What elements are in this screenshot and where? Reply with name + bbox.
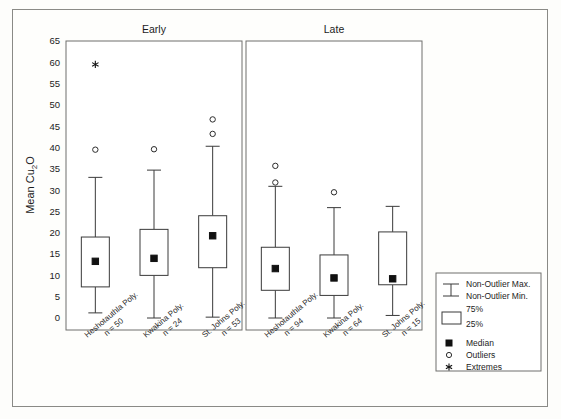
y-tick-label: 55 — [49, 78, 60, 89]
y-tick-label: 15 — [49, 248, 60, 259]
panel-title-late: Late — [324, 23, 345, 35]
y-tick-label: 35 — [49, 163, 60, 174]
y-axis-title-main: Mean Cu — [24, 169, 36, 214]
legend-label-pct75: 75% — [466, 304, 483, 314]
y-tick-label: 20 — [49, 227, 60, 238]
quartile-box-icon — [442, 312, 461, 324]
y-axis-title-tail: O — [24, 156, 36, 165]
legend-label-non-outlier-min: Non-Outlier Min. — [466, 291, 528, 301]
y-tick-label: 65 — [49, 35, 60, 46]
median-marker — [389, 276, 395, 282]
median-marker — [272, 265, 278, 271]
y-tick-label: 0 — [55, 312, 60, 323]
figure-canvas: Early Late Mean Cu2O 0510152025303540455… — [0, 0, 561, 419]
iqr-box — [140, 229, 168, 275]
median-marker — [92, 258, 98, 264]
y-tick-label: 60 — [49, 57, 60, 68]
y-tick-label: 50 — [49, 99, 60, 110]
legend-label-outliers: Outliers — [466, 350, 495, 360]
y-tick-label: 10 — [49, 270, 60, 281]
legend: Non-Outlier Max. Non-Outlier Min. 75% 25… — [436, 273, 541, 372]
median-marker — [331, 275, 337, 281]
boxplot-svg: Early Late Mean Cu2O 0510152025303540455… — [0, 0, 561, 419]
y-tick-label: 30 — [49, 185, 60, 196]
legend-label-pct25: 25% — [466, 319, 483, 329]
y-tick-label: 5 — [55, 291, 60, 302]
legend-label-non-outlier-max: Non-Outlier Max. — [466, 279, 530, 289]
median-marker — [151, 255, 157, 261]
legend-label-extremes: Extremes — [466, 362, 502, 372]
y-tick-label: 40 — [49, 142, 60, 153]
median-square-icon — [446, 340, 452, 346]
y-tick-label: 25 — [49, 206, 60, 217]
y-tick-label: 45 — [49, 121, 60, 132]
svg-text:Mean Cu2O: Mean Cu2O — [24, 156, 39, 214]
y-axis-ticks: 05101520253035404550556065 — [49, 35, 60, 323]
median-marker — [209, 233, 215, 239]
legend-label-median: Median — [466, 338, 494, 348]
y-axis-title: Mean Cu2O — [24, 156, 39, 214]
panel-title-early: Early — [142, 23, 167, 35]
iqr-box — [199, 216, 227, 268]
